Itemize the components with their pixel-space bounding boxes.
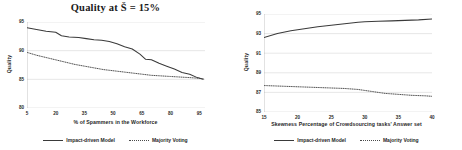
left-legend-label-impact-driven-model: Impact-driven Model bbox=[66, 137, 115, 143]
x-tick-label: 30 bbox=[357, 115, 373, 120]
solid-line-icon bbox=[43, 138, 63, 142]
y-tick-label: 95 bbox=[248, 11, 261, 16]
right-legend-entry-impact-driven-model: Impact-driven Model bbox=[274, 137, 346, 143]
left-legend-label-majority-voting: Majority Voting bbox=[152, 137, 188, 143]
dotted-line-icon bbox=[129, 138, 149, 142]
x-tick-label: 95 bbox=[191, 111, 207, 116]
left-legend-entry-majority-voting: Majority Voting bbox=[129, 137, 188, 143]
chart-panel-left: Quality at Š = 15% Quality 80859095 5203… bbox=[0, 0, 231, 150]
chart-panel-right: Quality 858789919395 152025303540 Skewne… bbox=[231, 0, 462, 150]
series-line-impact-driven-model bbox=[27, 28, 203, 80]
x-tick-label: 35 bbox=[76, 111, 92, 116]
x-tick-label: 40 bbox=[424, 115, 440, 120]
series-line-majority-voting bbox=[27, 52, 203, 78]
x-tick-label: 25 bbox=[323, 115, 339, 120]
y-tick-label: 90 bbox=[11, 48, 24, 53]
left-legend: Impact-driven Model Majority Voting bbox=[0, 137, 231, 143]
x-tick-label: 20 bbox=[48, 111, 64, 116]
dotted-line-icon bbox=[360, 138, 380, 142]
left-plot-area bbox=[27, 22, 205, 108]
left-chart-title: Quality at Š = 15% bbox=[0, 2, 231, 13]
left-legend-entry-impact-driven-model: Impact-driven Model bbox=[43, 137, 115, 143]
series-line-impact-driven-model bbox=[264, 19, 432, 38]
figure-two-panel-line-charts: Quality at Š = 15% Quality 80859095 5203… bbox=[0, 0, 462, 150]
right-legend-label-majority-voting: Majority Voting bbox=[383, 137, 419, 143]
y-tick-label: 85 bbox=[248, 109, 261, 114]
x-tick-label: 50 bbox=[105, 111, 121, 116]
x-tick-label: 35 bbox=[390, 115, 406, 120]
right-legend-label-impact-driven-model: Impact-driven Model bbox=[297, 137, 346, 143]
right-legend-entry-majority-voting: Majority Voting bbox=[360, 137, 419, 143]
right-legend: Impact-driven Model Majority Voting bbox=[231, 137, 462, 143]
right-plot-area bbox=[264, 14, 432, 112]
y-tick-label: 85 bbox=[11, 77, 24, 82]
x-tick-label: 65 bbox=[134, 111, 150, 116]
y-tick-label: 93 bbox=[248, 31, 261, 36]
y-tick-label: 89 bbox=[248, 70, 261, 75]
x-tick-label: 80 bbox=[163, 111, 179, 116]
y-tick-label: 95 bbox=[11, 19, 24, 24]
x-tick-label: 15 bbox=[256, 115, 272, 120]
y-tick-label: 80 bbox=[11, 105, 24, 110]
left-plot-svg bbox=[27, 22, 205, 108]
series-line-majority-voting bbox=[264, 86, 432, 97]
x-tick-label: 5 bbox=[19, 111, 35, 116]
left-x-axis-label: % of Spammers in the Workforce bbox=[0, 119, 231, 125]
right-plot-svg bbox=[264, 14, 432, 112]
y-tick-label: 91 bbox=[248, 51, 261, 56]
y-tick-label: 87 bbox=[248, 90, 261, 95]
solid-line-icon bbox=[274, 138, 294, 142]
x-tick-label: 20 bbox=[290, 115, 306, 120]
right-x-axis-label: Skewness Percentage of Crowdsourcing tas… bbox=[231, 121, 462, 127]
